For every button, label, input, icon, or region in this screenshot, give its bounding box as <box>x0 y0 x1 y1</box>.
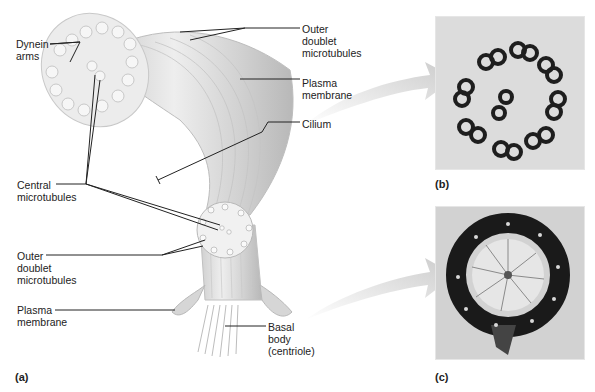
panel-label-c: (c) <box>435 371 448 383</box>
panel-label-a: (a) <box>15 371 28 383</box>
label-outer-doublet-microtubules-top: Outer doublet microtubules <box>302 23 362 59</box>
arrow-to-c <box>305 258 455 320</box>
label-cilium: Cilium <box>302 118 331 130</box>
label-basal-body: Basal body (centriole) <box>268 321 315 357</box>
label-plasma-membrane-top: Plasma membrane <box>302 77 352 101</box>
micrograph-c <box>435 206 585 360</box>
label-dynein-arms: Dynein arms <box>16 38 49 62</box>
cilium-top-cross-section <box>21 0 169 146</box>
panel-label-b: (b) <box>435 178 449 190</box>
micrograph-b <box>435 16 585 170</box>
basal-body-cartwheel-image <box>436 207 584 359</box>
label-plasma-membrane-bottom: Plasma membrane <box>17 304 67 328</box>
label-outer-doublet-microtubules-bottom: Outer doublet microtubules <box>17 250 77 286</box>
cilium-lower-cross-section <box>197 202 262 300</box>
axoneme-9-plus-2-image <box>436 17 584 169</box>
label-central-microtubules: Central microtubules <box>17 179 77 203</box>
